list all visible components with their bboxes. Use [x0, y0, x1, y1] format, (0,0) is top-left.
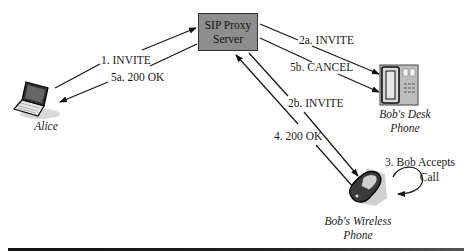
- desk-phone-label-line2: Phone: [370, 121, 440, 135]
- message-label-1: 1. INVITE: [101, 54, 151, 67]
- wireless-phone-label: Bob's Wireless Phone: [320, 214, 396, 242]
- desk-phone-label-line1: Bob's Desk: [370, 107, 440, 121]
- arrow-4-200ok: [236, 55, 354, 188]
- laptop-icon: [14, 82, 60, 119]
- message-label-4: 4. 200 OK: [274, 130, 322, 143]
- proxy-label-line2: Server: [213, 32, 243, 46]
- proxy-label-line1: SIP Proxy: [205, 18, 252, 32]
- desk-phone-icon: [380, 65, 418, 105]
- alice-label: Alice: [28, 119, 64, 133]
- wireless-phone-label-line1: Bob's Wireless: [320, 214, 396, 228]
- desk-phone-label: Bob's Desk Phone: [370, 107, 440, 135]
- sip-proxy-server-node: SIP Proxy Server: [198, 13, 258, 51]
- message-label-5a: 5a. 200 OK: [111, 71, 164, 84]
- self-action-line1: 3. Bob Accepts: [385, 155, 455, 170]
- wireless-phone-label-line2: Phone: [320, 228, 396, 242]
- message-label-5b: 5b. CANCEL: [290, 61, 353, 74]
- message-label-2b: 2b. INVITE: [288, 97, 344, 110]
- message-label-2a: 2a. INVITE: [299, 34, 354, 47]
- self-action-label: 3. Bob Accepts Call: [385, 155, 455, 185]
- self-action-line2: Call: [385, 170, 455, 185]
